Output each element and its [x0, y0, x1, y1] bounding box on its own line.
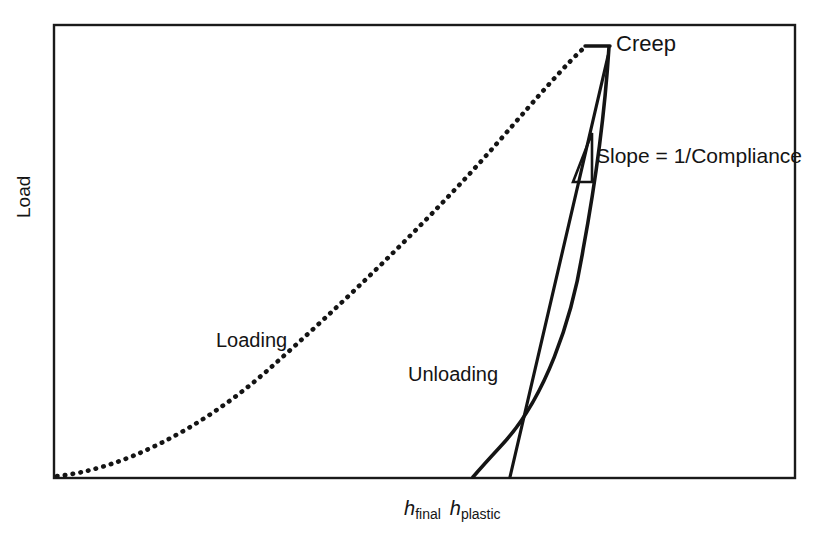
- plot-canvas: [0, 0, 823, 539]
- h-plastic-symbol: h: [450, 497, 461, 519]
- creep-label: Creep: [616, 33, 676, 55]
- unloading-curve-label: Unloading: [408, 364, 498, 384]
- unloading-curve: [473, 47, 609, 477]
- indentation-load-depth-figure: Load Loading Unloading Creep Slope = 1/C…: [0, 0, 823, 539]
- slope-triangle-marker: [573, 133, 592, 182]
- h-final-symbol: h: [404, 497, 415, 519]
- slope-compliance-label: Slope = 1/Compliance: [596, 145, 802, 166]
- unloading-tangent-line: [510, 56, 608, 477]
- h-plastic-subscript: plastic: [461, 506, 501, 522]
- x-axis-depth-labels: hfinalhplastic: [404, 498, 501, 518]
- h-final-subscript: final: [415, 506, 441, 522]
- loading-curve-label: Loading: [216, 330, 287, 350]
- y-axis-label: Load: [14, 176, 33, 218]
- axes-frame: [54, 25, 795, 478]
- loading-curve: [57, 47, 585, 476]
